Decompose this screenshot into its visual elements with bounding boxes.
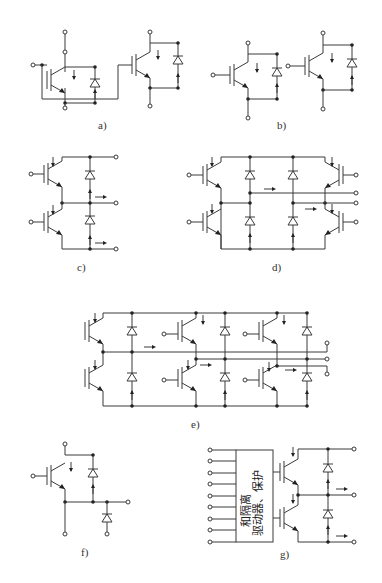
terminal — [63, 30, 67, 34]
panel-c: c) — [29, 155, 118, 274]
panel-label-b: b) — [277, 119, 287, 132]
panel-label-a: a) — [98, 119, 107, 132]
terminal — [63, 106, 67, 110]
terminal — [31, 63, 35, 67]
driver-block-text-line2: 和隔离 — [239, 494, 253, 527]
terminal — [148, 104, 152, 108]
terminal — [63, 50, 67, 54]
panel-d: d) — [187, 155, 358, 274]
panel-label-e: e) — [191, 418, 200, 431]
panel-label-c: c) — [77, 261, 86, 274]
panel-f: f) — [31, 442, 130, 559]
igbt-module-diagram: a) b) — [0, 0, 382, 583]
panel-g: 驱动器、保护 和隔离 g) — [208, 447, 356, 561]
panel-label-f: f) — [81, 546, 89, 559]
panel-label-d: d) — [272, 261, 282, 274]
panel-b: b) — [211, 31, 357, 132]
panel-label-g: g) — [280, 548, 290, 561]
panel-a: a) — [31, 30, 183, 132]
panel-e: e) — [85, 311, 329, 431]
driver-block-text-line1: 驱动器、保护 — [251, 470, 265, 536]
terminal — [148, 30, 152, 34]
